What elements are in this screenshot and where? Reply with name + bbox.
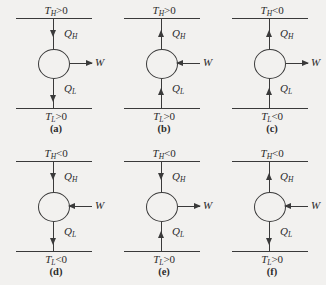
heat-high-label: QH xyxy=(280,27,293,43)
temp-low: TL>0 xyxy=(153,110,175,122)
work-label: W xyxy=(95,56,104,68)
q-low: QL xyxy=(64,225,76,237)
cold-reservoir-bar xyxy=(232,251,308,252)
temp-high: TH<0 xyxy=(261,4,284,16)
work-label: W xyxy=(311,56,320,68)
temp-high: TH<0 xyxy=(261,147,284,159)
panel-caption: (b) xyxy=(110,123,218,134)
q-low-subscript: L xyxy=(180,87,184,96)
q-high: QH xyxy=(172,27,185,39)
q-low-symbol: Q xyxy=(64,225,72,237)
heat-high-arrow-down-icon xyxy=(158,173,164,180)
temp-high-value: 0 xyxy=(170,4,175,16)
cold-reservoir-bar xyxy=(16,251,92,252)
work-label: W xyxy=(311,199,320,211)
heat-low-label: QL xyxy=(172,82,184,98)
q-low-symbol: Q xyxy=(280,82,288,94)
q-low-symbol: Q xyxy=(280,225,288,237)
temp-high-value: 0 xyxy=(170,147,175,159)
heat-low-arrow-up-icon xyxy=(158,88,164,95)
panel-b: TH>0TL>0QHQLW(b) xyxy=(110,0,218,142)
engine-circle xyxy=(38,49,70,79)
temp-low: TL>0 xyxy=(45,110,67,122)
q-high-symbol: Q xyxy=(64,27,72,39)
q-low-subscript: L xyxy=(288,230,292,239)
work-arrow-right-icon xyxy=(302,60,309,66)
work-arrow-left-icon xyxy=(68,203,75,209)
temp-low: TL>0 xyxy=(153,253,175,265)
heat-low-arrow-down-icon xyxy=(50,95,56,102)
work-label: W xyxy=(95,199,104,211)
heat-low-label: QL xyxy=(280,225,292,241)
engine-circle xyxy=(254,49,286,79)
panel-caption: (c) xyxy=(218,123,326,134)
temp-low-value: 0 xyxy=(278,110,283,122)
q-high-subscript: H xyxy=(72,32,77,41)
heat-low-label: QL xyxy=(172,225,184,241)
engine-circle xyxy=(146,192,178,222)
q-high-subscript: H xyxy=(288,175,293,184)
panel-caption: (d) xyxy=(2,266,110,277)
q-high-symbol: Q xyxy=(280,27,288,39)
work-arrow-left-icon xyxy=(176,60,183,66)
heat-high-arrow-down-icon xyxy=(50,173,56,180)
temp-low: TL>0 xyxy=(261,253,283,265)
temp-high: TH<0 xyxy=(153,147,176,159)
q-low: QL xyxy=(172,82,184,94)
panel-caption: (a) xyxy=(2,123,110,134)
cold-reservoir-bar xyxy=(124,251,200,252)
panel-f: TH<0TL>0QHQLW(f) xyxy=(218,143,326,285)
q-high: QH xyxy=(280,27,293,39)
heat-high-label: QH xyxy=(280,170,293,186)
heat-high-arrow-down-icon xyxy=(50,30,56,37)
thermodynamic-cycle-figure: TH>0TL>0QHQLW(a)TH>0TL>0QHQLW(b)TH<0TL<0… xyxy=(0,0,326,285)
work-label: W xyxy=(203,56,212,68)
work-arrow-right-icon xyxy=(86,60,93,66)
temp-high-value: 0 xyxy=(62,147,67,159)
cold-reservoir-bar xyxy=(232,108,308,109)
q-high-subscript: H xyxy=(180,175,185,184)
heat-high-label: QH xyxy=(172,27,185,43)
q-low: QL xyxy=(280,225,292,237)
panel-e: TH<0TL>0QHQLW(e) xyxy=(110,143,218,285)
q-high: QH xyxy=(64,27,77,39)
panel-c: TH<0TL<0QHQLW(c) xyxy=(218,0,326,142)
q-high-subscript: H xyxy=(288,32,293,41)
temp-high: TH>0 xyxy=(45,4,68,16)
heat-low-arrow-down-icon xyxy=(50,238,56,245)
temp-high-value: 0 xyxy=(62,4,67,16)
q-low: QL xyxy=(280,82,292,94)
temp-low-value: 0 xyxy=(62,253,67,265)
heat-low-arrow-up-icon xyxy=(158,231,164,238)
q-low: QL xyxy=(64,82,76,94)
temp-low-value: 0 xyxy=(170,110,175,122)
heat-high-arrow-up-icon xyxy=(266,30,272,37)
temp-high-value: 0 xyxy=(278,147,283,159)
q-low-subscript: L xyxy=(288,87,292,96)
q-low-subscript: L xyxy=(72,87,76,96)
q-high: QH xyxy=(280,170,293,182)
temp-low: TL<0 xyxy=(261,110,283,122)
q-high: QH xyxy=(172,170,185,182)
q-low-symbol: Q xyxy=(172,225,180,237)
temp-low-value: 0 xyxy=(278,253,283,265)
cold-reservoir-bar xyxy=(16,108,92,109)
q-low-symbol: Q xyxy=(64,82,72,94)
heat-high-label: QH xyxy=(64,170,77,186)
heat-low-flow-line xyxy=(269,222,270,251)
q-high: QH xyxy=(64,170,77,182)
heat-high-arrow-up-icon xyxy=(158,30,164,37)
heat-low-label: QL xyxy=(64,225,76,241)
q-high-subscript: H xyxy=(180,32,185,41)
temp-low-value: 0 xyxy=(62,110,67,122)
panel-d: TH<0TL<0QHQLW(d) xyxy=(2,143,110,285)
heat-low-flow-line xyxy=(53,222,54,251)
q-high-symbol: Q xyxy=(280,170,288,182)
q-high-symbol: Q xyxy=(172,27,180,39)
q-high-subscript: H xyxy=(72,175,77,184)
temp-high: TH>0 xyxy=(153,4,176,16)
heat-low-label: QL xyxy=(280,82,292,98)
engine-circle xyxy=(38,192,70,222)
heat-low-arrow-up-icon xyxy=(266,88,272,95)
heat-high-label: QH xyxy=(172,170,185,186)
